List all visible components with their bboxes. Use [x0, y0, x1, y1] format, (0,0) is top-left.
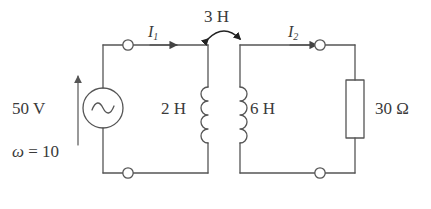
ac-source-sine-icon: [92, 103, 114, 113]
primary-inductor-label: 2 H: [161, 100, 186, 117]
resistor-label: 30 Ω: [375, 100, 409, 117]
terminal-top-left: [123, 40, 133, 50]
omega-symbol: ω: [12, 142, 24, 161]
frequency-equals: =: [28, 142, 38, 161]
inductor-secondary-6h: [240, 87, 247, 143]
source-frequency-label: ω = 10: [12, 143, 59, 160]
terminal-top-right: [315, 40, 325, 50]
terminal-bottom-right: [315, 168, 325, 178]
current-i1-subscript: 1: [153, 31, 158, 42]
mutual-inductance-label: 3 H: [204, 8, 229, 25]
circuit-diagram: 50 V ω = 10 2 H 6 H 3 H 30 Ω I1 I2: [0, 0, 431, 209]
circuit-schematic-svg: [0, 0, 431, 209]
current-label-i2: I2: [288, 24, 298, 40]
secondary-inductor-label: 6 H: [250, 100, 275, 117]
current-i2-subscript: 2: [293, 31, 298, 42]
source-voltage-label: 50 V: [12, 100, 45, 117]
resistor-box-30ohm: [346, 80, 364, 138]
inductor-primary-2h: [201, 87, 208, 143]
terminal-bottom-left: [123, 168, 133, 178]
frequency-value: 10: [42, 142, 59, 161]
mutual-coupling-arc-icon: [208, 31, 240, 39]
current-label-i1: I1: [148, 24, 158, 40]
